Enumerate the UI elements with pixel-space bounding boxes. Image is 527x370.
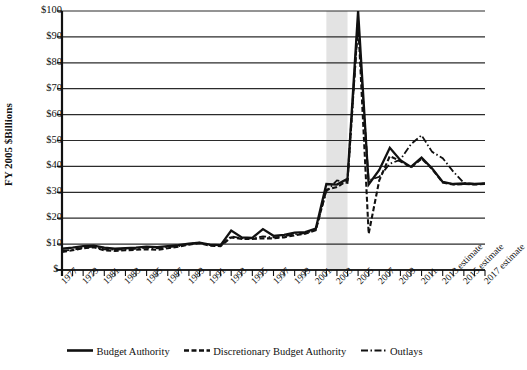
legend-label-discretionary-budget-authority: Discretionary Budget Authority bbox=[213, 346, 346, 357]
legend-item-discretionary-budget-authority: Discretionary Budget Authority bbox=[184, 345, 346, 357]
y-tick-label: $100 bbox=[16, 5, 62, 15]
legend-label-outlays: Outlays bbox=[390, 346, 423, 357]
series-line-outlays bbox=[62, 24, 485, 251]
y-tick-label: $40 bbox=[16, 160, 62, 170]
y-tick-label: $- bbox=[16, 264, 62, 274]
series-line-budget-authority bbox=[62, 11, 485, 249]
legend-swatch-dashdot bbox=[361, 347, 387, 354]
y-tick-label: $20 bbox=[16, 212, 62, 222]
legend-item-budget-authority: Budget Authority bbox=[67, 345, 169, 357]
y-tick-label: $50 bbox=[16, 135, 62, 145]
legend-label-budget-authority: Budget Authority bbox=[96, 346, 169, 357]
y-tick-label: $30 bbox=[16, 186, 62, 196]
legend-swatch-solid bbox=[67, 347, 93, 354]
y-tick-label: $70 bbox=[16, 83, 62, 93]
y-tick-label: $90 bbox=[16, 31, 62, 41]
chart-legend: Budget Authority Discretionary Budget Au… bbox=[0, 344, 490, 357]
legend-item-outlays: Outlays bbox=[361, 345, 423, 357]
y-tick-label: $60 bbox=[16, 109, 62, 119]
y-tick-label: $80 bbox=[16, 57, 62, 67]
y-tick-label: $10 bbox=[16, 238, 62, 248]
legend-swatch-dashed bbox=[184, 347, 210, 354]
y-axis-tick-labels: $100$90$80$70$60$50$40$30$20$10$- bbox=[0, 0, 62, 290]
series-line-discretionary-budget-authority bbox=[62, 21, 485, 252]
